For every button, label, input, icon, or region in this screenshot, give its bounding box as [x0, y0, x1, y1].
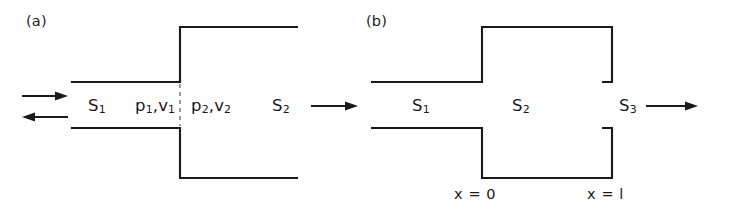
label-section-1-subscript: 1 — [99, 103, 106, 116]
panel-a-tag: (a) — [26, 14, 47, 29]
panel-a-drawing — [0, 0, 368, 217]
label-section-1: S1 — [412, 98, 430, 115]
panel-b: (b) S1 S2 S3 x = 0 x = l — [368, 0, 736, 217]
label-state-1-velocity-subscript: 1 — [168, 103, 175, 116]
label-section-2-symbol: S — [272, 96, 283, 115]
label-section-1-subscript: 1 — [423, 103, 430, 116]
duct-step-bottom — [180, 128, 297, 178]
label-state-2-pressure: p — [191, 96, 202, 115]
label-section-2: S2 — [512, 98, 530, 115]
label-state-2-velocity: v — [214, 96, 224, 115]
figure-container: (a) S1 p1,v1 p2,v2 S2 — [0, 0, 736, 217]
transmitted-wave-arrow — [646, 102, 698, 111]
duct-wall-top-profile — [372, 27, 612, 82]
label-state-1: p1,v1 — [135, 98, 175, 115]
label-state-2-velocity-subscript: 2 — [224, 103, 231, 116]
duct-step-top — [180, 27, 297, 82]
label-section-3-subscript: 3 — [630, 103, 637, 116]
label-section-2-subscript: 2 — [523, 103, 530, 116]
panel-a: (a) S1 p1,v1 p2,v2 S2 — [0, 0, 368, 217]
label-section-2: S2 — [272, 98, 290, 115]
label-section-2-subscript: 2 — [283, 103, 290, 116]
transmitted-wave-arrow — [311, 102, 358, 111]
label-state-1-velocity: v — [158, 96, 168, 115]
panel-b-tag: (b) — [366, 14, 387, 29]
label-position-end: x = l — [587, 187, 624, 202]
label-section-1: S1 — [88, 98, 106, 115]
label-section-3-symbol: S — [619, 96, 630, 115]
label-section-2-symbol: S — [512, 96, 523, 115]
label-state-1-pressure: p — [135, 96, 146, 115]
label-state-1-pressure-subscript: 1 — [146, 103, 153, 116]
label-section-1-symbol: S — [88, 96, 99, 115]
duct-wall-bottom-profile — [372, 128, 612, 178]
incident-wave-arrow — [22, 92, 68, 101]
label-section-3: S3 — [619, 98, 637, 115]
label-state-2-pressure-subscript: 2 — [202, 103, 209, 116]
label-section-1-symbol: S — [412, 96, 423, 115]
label-state-2: p2,v2 — [191, 98, 231, 115]
reflected-wave-arrow — [22, 113, 68, 122]
label-position-start: x = 0 — [454, 187, 496, 202]
